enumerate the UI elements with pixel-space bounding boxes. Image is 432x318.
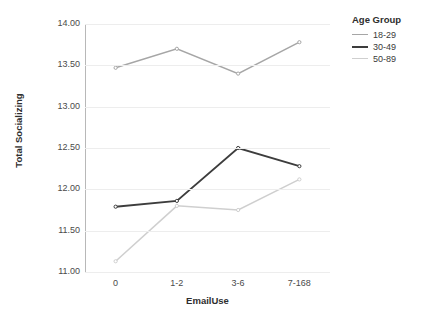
data-point [298, 165, 301, 168]
y-axis-tick-label: 12.50 [38, 143, 80, 152]
x-axis-tick-label: 0 [81, 278, 151, 288]
legend-item-50-89[interactable]: 50-89 [352, 53, 430, 64]
legend-item-30-49[interactable]: 30-49 [352, 41, 430, 52]
legend-item-label: 50-89 [373, 54, 396, 64]
x-axis-tick-label: 3-6 [203, 278, 273, 288]
legend-swatch-icon [352, 46, 368, 48]
y-axis-tick-label: 14.00 [38, 19, 80, 28]
gridline [85, 231, 330, 232]
data-point [114, 260, 117, 263]
series-line-18-29 [116, 42, 300, 73]
data-point [237, 72, 240, 75]
y-axis-tick-label: 11.00 [38, 267, 80, 276]
data-point [298, 41, 301, 44]
plot-area [85, 24, 330, 272]
legend-title: Age Group [352, 14, 430, 25]
y-axis-title: Total Socializing [13, 61, 24, 201]
data-point [175, 204, 178, 207]
legend-item-18-29[interactable]: 18-29 [352, 29, 430, 40]
gridline [85, 24, 330, 25]
x-axis-title: EmailUse [85, 295, 330, 306]
x-axis-tick-label: 7-168 [264, 278, 334, 288]
series-line-30-49 [116, 148, 300, 207]
data-point [175, 199, 178, 202]
y-axis-tick-label: 12.00 [38, 184, 80, 193]
legend-item-label: 30-49 [373, 42, 396, 52]
gridline [85, 65, 330, 66]
x-axis-tick-label: 1-2 [142, 278, 212, 288]
gridline [85, 189, 330, 190]
data-point [237, 208, 240, 211]
y-axis-tick-label: 13.50 [38, 60, 80, 69]
series-line-50-89 [116, 179, 300, 261]
data-point [114, 66, 117, 69]
y-axis-tick-label: 11.50 [38, 226, 80, 235]
legend: Age Group 18-2930-4950-89 [352, 14, 430, 65]
gridline [85, 107, 330, 108]
gridline [85, 148, 330, 149]
data-point [114, 205, 117, 208]
data-point [175, 47, 178, 50]
legend-swatch-icon [352, 34, 368, 35]
gridline [85, 272, 330, 273]
line-chart: 11.0011.5012.0012.5013.0013.5014.00 Emai… [0, 0, 432, 318]
legend-item-label: 18-29 [373, 30, 396, 40]
legend-swatch-icon [352, 58, 368, 59]
y-axis-tick-label: 13.00 [38, 102, 80, 111]
data-point [298, 178, 301, 181]
